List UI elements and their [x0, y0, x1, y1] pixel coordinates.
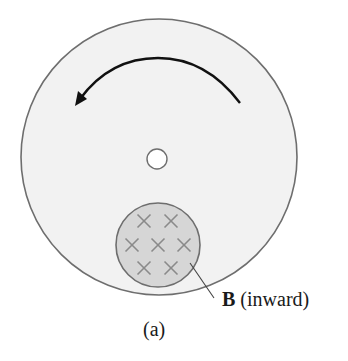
field-direction: (inward)	[235, 288, 309, 310]
figure-caption: (a)	[143, 318, 165, 341]
center-hole	[147, 149, 167, 169]
field-symbol: B	[222, 288, 235, 310]
field-label: B (inward)	[222, 288, 309, 311]
